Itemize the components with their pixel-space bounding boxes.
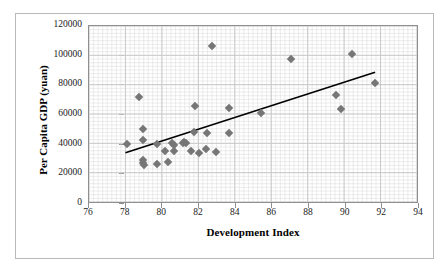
- y-tick-label: 60000: [58, 109, 82, 119]
- scatter-chart: Per Capita GDP (yuan) 020000400006000080…: [0, 0, 447, 274]
- x-tick-label: 76: [73, 208, 103, 218]
- x-tick-label: 90: [330, 208, 360, 218]
- y-tick-label: 80000: [58, 79, 82, 89]
- x-axis-title: Development Index: [88, 226, 418, 238]
- x-tick-label: 88: [293, 208, 323, 218]
- y-axis-ticks: 020000400006000080000100000120000: [36, 0, 82, 274]
- x-tick-label: 94: [403, 208, 433, 218]
- y-tick-label: 40000: [58, 139, 82, 149]
- plot-area: [88, 25, 418, 203]
- trend-line: [89, 26, 417, 202]
- x-tick-mark: [235, 203, 236, 208]
- y-tick-label: 100000: [54, 50, 83, 60]
- x-tick-mark: [198, 203, 199, 208]
- y-tick-label: 120000: [54, 20, 83, 30]
- x-tick-mark: [418, 203, 419, 208]
- x-tick-label: 92: [366, 208, 396, 218]
- x-tick-label: 80: [146, 208, 176, 218]
- x-tick-label: 78: [110, 208, 140, 218]
- x-tick-mark: [308, 203, 309, 208]
- y-tick-label: 20000: [58, 168, 82, 178]
- x-tick-label: 82: [183, 208, 213, 218]
- x-tick-label: 84: [220, 208, 250, 218]
- x-tick-mark: [161, 203, 162, 208]
- x-tick-mark: [271, 203, 272, 208]
- y-tick-mark: [119, 203, 124, 204]
- x-tick-mark: [88, 203, 89, 208]
- x-tick-label: 86: [256, 208, 286, 218]
- x-tick-mark: [345, 203, 346, 208]
- x-tick-mark: [381, 203, 382, 208]
- y-tick-label: 0: [77, 198, 82, 208]
- x-tick-mark: [125, 203, 126, 208]
